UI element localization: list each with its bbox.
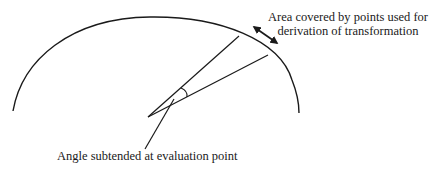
angle-subtended-label: Angle subtended at evaluation point <box>57 149 238 163</box>
area-covered-label: Area covered by points used for derivati… <box>262 10 434 38</box>
area-label-line2: derivation of transformation <box>262 24 434 38</box>
angle-arc <box>181 88 187 97</box>
area-label-line1: Area covered by points used for <box>262 10 434 24</box>
diagram-canvas: Area covered by points used for derivati… <box>0 0 435 171</box>
boundary-arc <box>13 17 299 113</box>
